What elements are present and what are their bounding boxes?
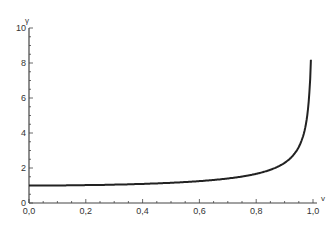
- x-tick-label: 0,8: [250, 206, 263, 216]
- x-tick-label: 1,0: [307, 206, 320, 216]
- y-tick-label: 8: [21, 58, 26, 68]
- x-tick-label: 0,2: [80, 206, 93, 216]
- y-tick-label: 6: [21, 93, 26, 103]
- y-tick-label: 2: [21, 163, 26, 173]
- x-tick-label: 0,6: [193, 206, 206, 216]
- x-tick-label: 0,4: [136, 206, 149, 216]
- data-line: [29, 60, 311, 186]
- x-axis-title: v: [321, 194, 325, 203]
- y-tick-label: 4: [21, 128, 26, 138]
- y-tick-label: 0: [21, 198, 26, 208]
- chart: 0,00,20,40,60,81,00246810vγ: [0, 0, 336, 228]
- y-axis-title: γ: [25, 16, 29, 25]
